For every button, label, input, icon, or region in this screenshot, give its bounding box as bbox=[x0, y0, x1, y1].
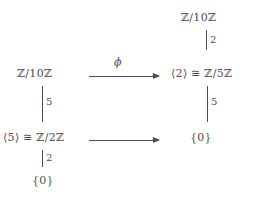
edge-label-left-vertical-upper: 5 bbox=[46, 96, 52, 107]
node-top-right: ℤ/10ℤ bbox=[181, 11, 216, 24]
edge-top-right-vertical-line bbox=[206, 30, 207, 50]
edge-label-phi: ϕ bbox=[114, 56, 122, 69]
edge-label-right-vertical: 5 bbox=[211, 96, 217, 107]
node-mid-right: ⟨2⟩ ≅ ℤ/5ℤ bbox=[171, 67, 232, 80]
edge-top-horizontal-arrow bbox=[89, 76, 159, 77]
edge-left-vertical-upper-line bbox=[42, 86, 43, 122]
commutative-diagram: ℤ/10ℤ 2 ℤ/10ℤ ϕ ⟨2⟩ ≅ ℤ/5ℤ 5 5 ⟨5⟩ ≅ ℤ/2… bbox=[0, 0, 253, 209]
node-mid-left: ℤ/10ℤ bbox=[17, 67, 52, 80]
node-bottom-left: ⟨5⟩ ≅ ℤ/2ℤ bbox=[3, 131, 64, 144]
node-bottom-left-zero: {0} bbox=[32, 174, 54, 187]
edge-label-left-vertical-lower: 2 bbox=[46, 152, 52, 163]
edge-bottom-horizontal-arrow bbox=[89, 140, 159, 141]
edge-right-vertical-line bbox=[207, 86, 208, 122]
edge-left-vertical-lower-line bbox=[42, 150, 43, 167]
edge-label-top-right-vertical: 2 bbox=[210, 34, 216, 45]
node-bottom-right: {0} bbox=[190, 131, 212, 144]
